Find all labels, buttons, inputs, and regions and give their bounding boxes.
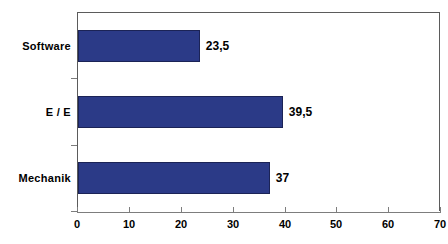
x-axis-label-20: 20 <box>175 218 187 230</box>
x-axis-label-30: 30 <box>227 218 239 230</box>
category-label-ee: E / E <box>0 106 71 118</box>
x-axis-label-70: 70 <box>434 218 446 230</box>
x-axis-tick-20 <box>181 207 182 213</box>
value-label-mechanik: 37 <box>276 171 289 185</box>
bar-ee[interactable] <box>78 96 283 128</box>
bar-mechanik[interactable] <box>78 162 270 194</box>
category-label-software: Software <box>0 40 71 52</box>
value-label-software: 23,5 <box>206 39 229 53</box>
x-axis-label-60: 60 <box>382 218 394 230</box>
x-axis-label-40: 40 <box>279 218 291 230</box>
value-label-ee: 39,5 <box>289 105 312 119</box>
x-axis-label-0: 0 <box>74 218 80 230</box>
x-axis-label-50: 50 <box>330 218 342 230</box>
y-axis-tick-2 <box>71 145 77 146</box>
x-axis-tick-60 <box>388 207 389 213</box>
x-axis-tick-70 <box>440 207 441 213</box>
category-label-mechanik: Mechanik <box>0 172 71 184</box>
x-axis-line <box>77 212 440 213</box>
x-axis-tick-10 <box>129 207 130 213</box>
y-axis-tick-1 <box>71 78 77 79</box>
x-axis-tick-50 <box>336 207 337 213</box>
bar-chart: Software E / E Mechanik 23,5 39,5 37 0 1… <box>0 0 448 244</box>
x-axis-tick-0 <box>77 207 78 213</box>
x-axis-tick-40 <box>285 207 286 213</box>
bar-software[interactable] <box>78 30 200 62</box>
x-axis-tick-30 <box>233 207 234 213</box>
x-axis-label-10: 10 <box>123 218 135 230</box>
